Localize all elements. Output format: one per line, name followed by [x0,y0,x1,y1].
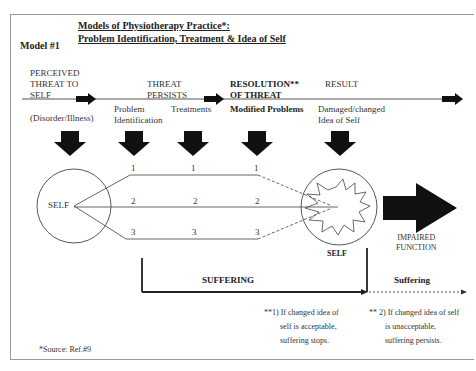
note-2: ** 2) If changed idea of self is unaccep… [369,306,459,348]
impaired-function-arrow-icon [383,183,457,233]
down-arrow-icon [118,131,150,156]
problem-label-2: 2 [255,196,260,207]
down-arrow-icon [324,131,356,156]
problem-label-1: 1 [254,163,259,174]
down-arrow-icon [177,131,209,156]
problem-label-3: 3 [131,227,136,238]
timeline-arrow-end [442,93,463,105]
suffering-label: SUFFERING [202,275,254,286]
source-note: *Source: Ref.#9 [39,344,91,355]
problem-label-2: 2 [131,196,136,207]
down-arrow-icon [54,131,86,156]
problem-label-3: 3 [255,227,260,238]
suffering-after-label: Suffering [394,275,430,286]
problem-line-3-dashed [258,208,332,239]
problem-label-1: 1 [131,163,136,174]
problem-line-1 [74,175,258,206]
problem-label-1: 1 [191,163,196,174]
problem-line-3 [74,206,258,239]
timeline-arrow-2 [204,93,224,105]
problem-label-3: 3 [192,227,197,238]
self-label-right: SELF [327,248,347,259]
note-1: **1) If changed idea of self is acceptab… [264,306,339,348]
problem-label-2: 2 [193,196,198,207]
down-arrow-icon [241,131,273,156]
self-label-left: SELF [48,200,69,211]
timeline-arrow-1 [76,93,96,105]
problem-line-1-dashed [258,175,332,206]
impaired-function-label: IMPAIRED FUNCTION [396,233,436,253]
